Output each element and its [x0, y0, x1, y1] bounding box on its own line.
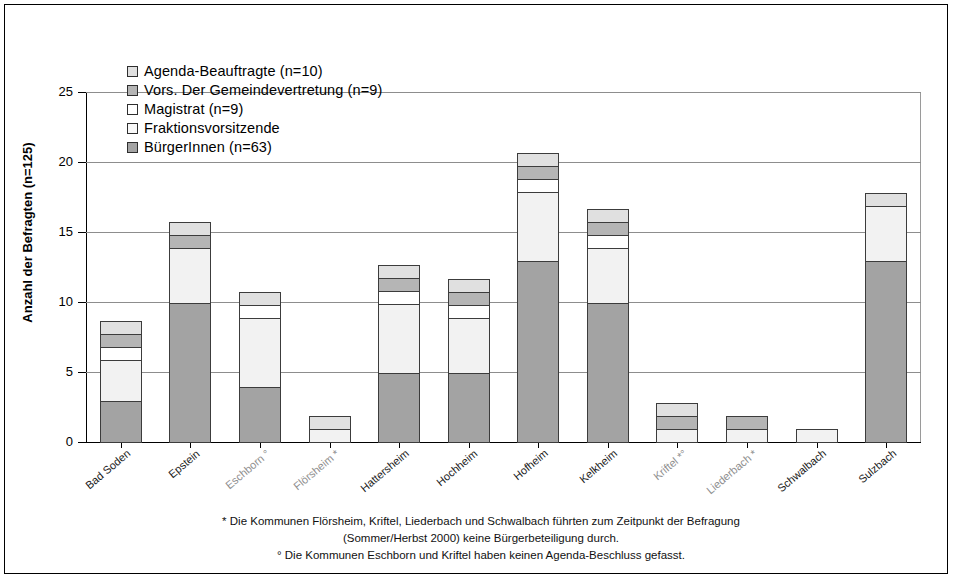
- bar-segment[interactable]: [587, 209, 629, 223]
- bar-segment[interactable]: [239, 318, 281, 388]
- bar-segment[interactable]: [309, 429, 351, 443]
- bar-segment[interactable]: [378, 278, 420, 292]
- bar-segment[interactable]: [517, 192, 559, 262]
- bar-segment[interactable]: [587, 235, 629, 249]
- bar-stack[interactable]: [378, 265, 420, 442]
- x-tick-3: [330, 443, 331, 448]
- bar-stack[interactable]: [726, 416, 768, 442]
- bar-stack[interactable]: [865, 193, 907, 442]
- x-axis-label-3: Flörsheim *: [291, 447, 341, 492]
- bar-segment[interactable]: [865, 261, 907, 443]
- footnote-line-2: (Sommer/Herbst 2000) keine Bürgerbeteili…: [9, 530, 953, 547]
- chart-legend: Agenda-Beauftragte (n=10)Vors. Der Gemei…: [127, 62, 382, 157]
- bar-segment[interactable]: [517, 166, 559, 180]
- bar-stack[interactable]: [448, 279, 490, 442]
- bar-segment[interactable]: [378, 291, 420, 305]
- bar-segment[interactable]: [587, 222, 629, 236]
- bar-segment[interactable]: [239, 292, 281, 306]
- bar-segment[interactable]: [100, 347, 142, 361]
- bar-segment[interactable]: [517, 179, 559, 193]
- bar-stack[interactable]: [796, 429, 838, 442]
- bar-segment[interactable]: [448, 305, 490, 319]
- bar-segment[interactable]: [169, 248, 211, 304]
- x-axis-label-7: Kelkheim: [577, 447, 619, 485]
- footnote-line-1: * Die Kommunen Flörsheim, Kriftel, Liede…: [9, 513, 953, 530]
- bar-segment[interactable]: [517, 153, 559, 167]
- legend-swatch-icon: [127, 85, 138, 96]
- x-tick-9: [747, 443, 748, 448]
- y-tick-label-25: 25: [33, 85, 73, 98]
- bar-segment[interactable]: [100, 321, 142, 335]
- x-axis-label-11: Sulzbach: [856, 447, 898, 485]
- x-axis-label-2: Eschborn °: [223, 447, 272, 491]
- bar-segment[interactable]: [656, 429, 698, 443]
- bar-segment[interactable]: [239, 387, 281, 443]
- bar-segment[interactable]: [378, 265, 420, 279]
- bar-segment[interactable]: [100, 401, 142, 443]
- legend-item[interactable]: Vors. Der Gemeindevertretung (n=9): [127, 81, 382, 100]
- legend-swatch-icon: [127, 104, 138, 115]
- bar-segment[interactable]: [448, 373, 490, 443]
- bar-segment[interactable]: [100, 334, 142, 348]
- bar-stack[interactable]: [587, 209, 629, 442]
- bar-segment[interactable]: [587, 303, 629, 443]
- bar-segment[interactable]: [656, 416, 698, 430]
- bar-segment[interactable]: [378, 373, 420, 443]
- x-tick-11: [886, 443, 887, 448]
- legend-swatch-icon: [127, 123, 138, 134]
- bar-segment[interactable]: [796, 429, 838, 443]
- footnotes: * Die Kommunen Flörsheim, Kriftel, Liede…: [9, 513, 953, 564]
- bar-segment[interactable]: [448, 292, 490, 306]
- bar-segment[interactable]: [656, 403, 698, 417]
- y-tick-15: [78, 232, 86, 233]
- bar-stack[interactable]: [169, 222, 211, 442]
- bar-stack[interactable]: [239, 292, 281, 442]
- bar-stack[interactable]: [517, 153, 559, 442]
- y-tick-25: [78, 92, 86, 93]
- bar-segment[interactable]: [448, 279, 490, 293]
- x-tick-5: [469, 443, 470, 448]
- legend-item[interactable]: Magistrat (n=9): [127, 100, 382, 119]
- x-axis-label-9: Liederbach *: [704, 447, 759, 496]
- bar-segment[interactable]: [448, 318, 490, 374]
- bar-segment[interactable]: [865, 206, 907, 262]
- bar-segment[interactable]: [169, 235, 211, 249]
- bar-segment[interactable]: [865, 193, 907, 207]
- x-axis-label-8: Kriftel *°: [651, 447, 689, 482]
- bar-segment[interactable]: [726, 429, 768, 443]
- bar-stack[interactable]: [309, 416, 351, 442]
- y-tick-label-0: 0: [33, 435, 73, 448]
- bar-segment[interactable]: [309, 416, 351, 430]
- legend-label: Magistrat (n=9): [144, 102, 243, 117]
- legend-label: BürgerInnen (n=63): [144, 140, 272, 155]
- y-tick-label-15: 15: [33, 225, 73, 238]
- y-tick-10: [78, 302, 86, 303]
- bar-stack[interactable]: [656, 403, 698, 442]
- bar-segment[interactable]: [100, 360, 142, 402]
- legend-label: Fraktionsvorsitzende: [144, 121, 280, 136]
- y-tick-label-20: 20: [33, 155, 73, 168]
- bar-segment[interactable]: [517, 261, 559, 443]
- bar-stack[interactable]: [100, 321, 142, 442]
- bar-segment[interactable]: [378, 304, 420, 374]
- legend-item[interactable]: Agenda-Beauftragte (n=10): [127, 62, 382, 81]
- legend-item[interactable]: BürgerInnen (n=63): [127, 138, 382, 157]
- x-tick-1: [190, 443, 191, 448]
- chart-frame: Anzahl der Befragten (n=125) 0510152025 …: [4, 4, 948, 574]
- y-tick-20: [78, 162, 86, 163]
- bar-segment[interactable]: [587, 248, 629, 304]
- bar-segment[interactable]: [726, 416, 768, 430]
- bar-segment[interactable]: [169, 222, 211, 236]
- x-axis-label-5: Hochheim: [434, 447, 480, 488]
- x-axis-label-6: Hofheim: [511, 447, 550, 483]
- x-axis-label-0: Bad Soden: [83, 447, 132, 491]
- x-axis-label-4: Hattersheim: [358, 447, 411, 494]
- x-tick-8: [677, 443, 678, 448]
- x-tick-0: [121, 443, 122, 448]
- footnote-line-3: ° Die Kommunen Eschborn und Kriftel habe…: [9, 547, 953, 564]
- bar-segment[interactable]: [239, 305, 281, 319]
- y-tick-label-5: 5: [33, 365, 73, 378]
- bar-segment[interactable]: [169, 303, 211, 443]
- y-tick-0: [78, 442, 86, 443]
- legend-item[interactable]: Fraktionsvorsitzende: [127, 119, 382, 138]
